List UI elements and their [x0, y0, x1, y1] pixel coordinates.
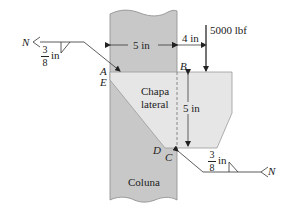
point-d-label: D: [153, 145, 161, 156]
weld-tail-n-upper: N: [22, 37, 29, 48]
point-b-label: B: [180, 61, 187, 72]
point-c-label: C: [165, 152, 172, 163]
weld-size-unit-lower: in: [218, 155, 227, 166]
weld-size-fraction-lower: 3 8: [208, 150, 216, 173]
weld-size-fraction-upper: 3 8: [41, 45, 49, 68]
point-e-label: E: [100, 77, 107, 88]
weld-size-unit-upper: in: [51, 50, 60, 61]
plate-label-line1: Chapa: [141, 86, 169, 97]
load-offset-label: 4 in: [182, 33, 199, 44]
column-label: Coluna: [128, 177, 160, 188]
weld-tail-n-lower: N: [268, 166, 275, 177]
column-width-label: 5 in: [133, 40, 150, 51]
plate-label-line2: lateral: [141, 99, 168, 110]
load-label: 5000 lbf: [210, 25, 247, 36]
plate-height-label: 5 in: [183, 103, 200, 114]
